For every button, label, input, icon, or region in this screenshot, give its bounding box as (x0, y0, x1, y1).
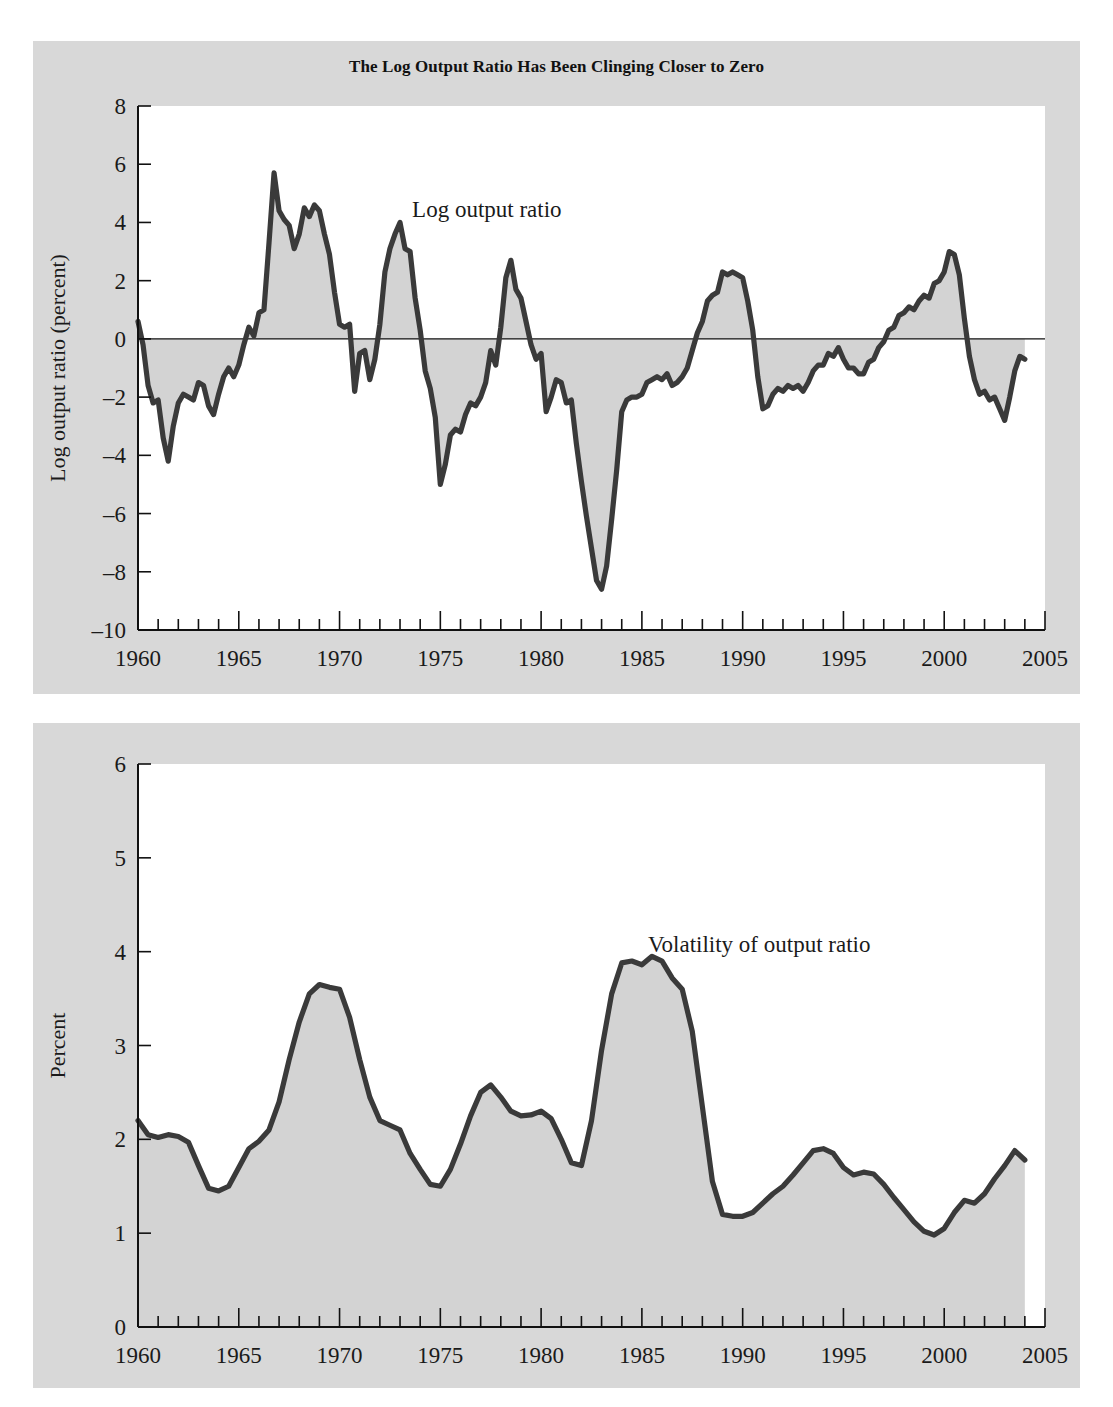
x-tick-label: 1960 (115, 646, 161, 671)
chart-annotation-label: Log output ratio (412, 197, 561, 222)
x-tick-label: 1975 (417, 646, 463, 671)
y-tick-label: 2 (115, 1127, 127, 1152)
figure-page: The Log Output Ratio Has Been Clinging C… (0, 0, 1113, 1407)
chart-annotation-label: Volatility of output ratio (648, 932, 871, 957)
x-tick-label: 1990 (720, 646, 766, 671)
x-tick-label: 1990 (720, 1343, 766, 1368)
y-tick-label: 5 (115, 846, 127, 871)
x-tick-label: 1985 (619, 1343, 665, 1368)
x-tick-label: 1965 (216, 646, 262, 671)
x-tick-label: 1970 (317, 1343, 363, 1368)
chart-panel-volatility: 6543210196019651970197519801985199019952… (33, 723, 1080, 1388)
y-tick-label: 0 (115, 327, 127, 352)
y-tick-label: –6 (102, 502, 126, 527)
y-tick-label: –8 (102, 560, 126, 585)
chart-panel-log-output-ratio: The Log Output Ratio Has Been Clinging C… (33, 41, 1080, 694)
x-tick-label: 1975 (417, 1343, 463, 1368)
y-axis-title: Log output ratio (percent) (45, 254, 70, 482)
x-tick-label: 1960 (115, 1343, 161, 1368)
x-tick-label: 1970 (317, 646, 363, 671)
x-tick-label: 1995 (820, 646, 866, 671)
y-tick-label: –2 (102, 385, 126, 410)
y-tick-label: 1 (115, 1221, 127, 1246)
y-tick-label: 6 (115, 152, 127, 177)
x-tick-label: 2000 (921, 1343, 967, 1368)
y-tick-label: 8 (115, 94, 127, 119)
y-tick-label: 4 (115, 210, 127, 235)
y-tick-label: 0 (115, 1315, 127, 1340)
x-tick-label: 1980 (518, 646, 564, 671)
x-tick-label: 1985 (619, 646, 665, 671)
chart-svg-log-output-ratio: 86420–2–4–6–8–10196019651970197519801985… (33, 41, 1080, 694)
x-tick-label: 1995 (820, 1343, 866, 1368)
x-tick-label: 2005 (1022, 1343, 1068, 1368)
x-tick-label: 1965 (216, 1343, 262, 1368)
x-tick-label: 2000 (921, 646, 967, 671)
y-tick-label: 3 (115, 1034, 127, 1059)
y-tick-label: –4 (102, 443, 127, 468)
y-tick-label: 2 (115, 269, 127, 294)
chart-title: The Log Output Ratio Has Been Clinging C… (33, 57, 1080, 77)
y-tick-label: 6 (115, 752, 127, 777)
x-tick-label: 1980 (518, 1343, 564, 1368)
y-tick-label: –10 (91, 618, 127, 643)
y-tick-label: 4 (115, 940, 127, 965)
chart-svg-volatility: 6543210196019651970197519801985199019952… (33, 723, 1080, 1388)
x-tick-label: 2005 (1022, 646, 1068, 671)
y-axis-title: Percent (45, 1013, 70, 1079)
